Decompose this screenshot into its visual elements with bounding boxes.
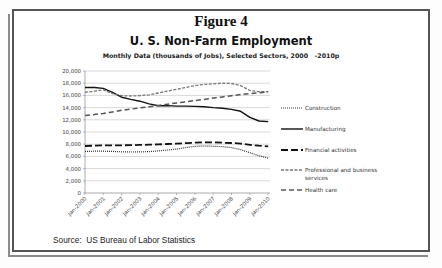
legend-label: Health care: [305, 187, 338, 193]
x-tick-label: Jan-2003: [121, 195, 144, 218]
y-tick-label: 18,000: [62, 80, 81, 86]
y-axis: 02,0004,0006,0008,00010,00012,00014,0001…: [62, 68, 85, 196]
legend-label: Manufacturing: [305, 126, 346, 133]
y-tick-label: 2,000: [66, 178, 82, 184]
legend-label: Professional and businessservices: [305, 167, 377, 181]
x-tick-label: Jan-2006: [176, 195, 199, 218]
x-tick-label: Jan-2008: [212, 195, 235, 218]
x-tick-label: Jan-2010: [249, 195, 272, 218]
y-tick-label: 8,000: [66, 141, 82, 147]
x-axis: Jan-2000Jan-2001Jan-2002Jan-2003Jan-2004…: [66, 193, 272, 218]
y-tick-label: 10,000: [62, 129, 81, 135]
x-tick-label: Jan-2005: [157, 195, 180, 218]
legend-item-financial-activities: Financial activities: [281, 147, 357, 153]
x-tick-label: Jan-2009: [231, 195, 254, 218]
legend-item-construction: Construction: [281, 105, 341, 111]
x-tick-label: Jan-2000: [66, 195, 89, 218]
legend-item-health-care: Health care: [281, 187, 338, 193]
y-tick-label: 14,000: [62, 105, 81, 111]
y-tick-label: 6,000: [66, 153, 82, 159]
y-tick-label: 0: [78, 190, 82, 196]
y-tick-label: 12,000: [62, 117, 81, 123]
series-lines: [85, 83, 268, 158]
legend: ConstructionManufacturingFinancial activ…: [281, 105, 377, 193]
chart-svg: 02,0004,0006,0008,00010,00012,00014,0001…: [0, 0, 442, 268]
y-tick-label: 4,000: [66, 166, 82, 172]
legend-item-manufacturing: Manufacturing: [281, 126, 346, 133]
y-tick-label: 16,000: [62, 92, 81, 98]
y-tick-label: 20,000: [62, 68, 81, 74]
gridlines: [85, 71, 270, 193]
x-tick-label: Jan-2001: [84, 195, 107, 218]
series-line-manufacturing: [85, 88, 268, 122]
legend-label: Financial activities: [305, 147, 357, 153]
legend-item-professional-and-business-services: Professional and businessservices: [281, 167, 377, 181]
x-tick-label: Jan-2004: [139, 195, 162, 218]
x-tick-label: Jan-2002: [102, 195, 125, 218]
source-note: Source: US Bureau of Labor Statistics: [53, 235, 195, 245]
legend-label: Construction: [305, 105, 341, 111]
series-line-professional-and-business-services: [85, 83, 268, 96]
x-tick-label: Jan-2007: [194, 195, 217, 218]
